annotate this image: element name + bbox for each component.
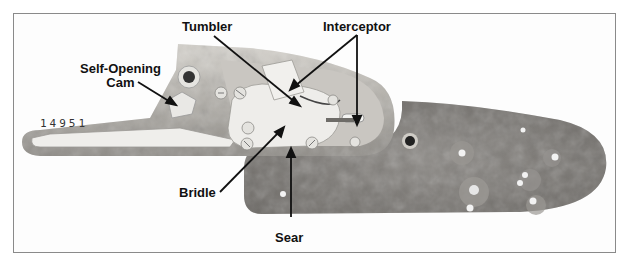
label-tumbler: Tumbler [182,20,232,34]
label-self-opening-cam-line2: Cam [80,76,161,90]
label-sear: Sear [275,231,303,245]
label-interceptor: Interceptor [323,20,391,34]
label-bridle: Bridle [179,186,216,200]
lock-plate [22,44,395,156]
label-self-opening-cam-line1: Self-Opening [80,62,161,76]
serial-number: 14951 [40,117,88,130]
label-self-opening-cam: Self-Opening Cam [80,62,161,90]
sidelock-photo [0,0,630,264]
